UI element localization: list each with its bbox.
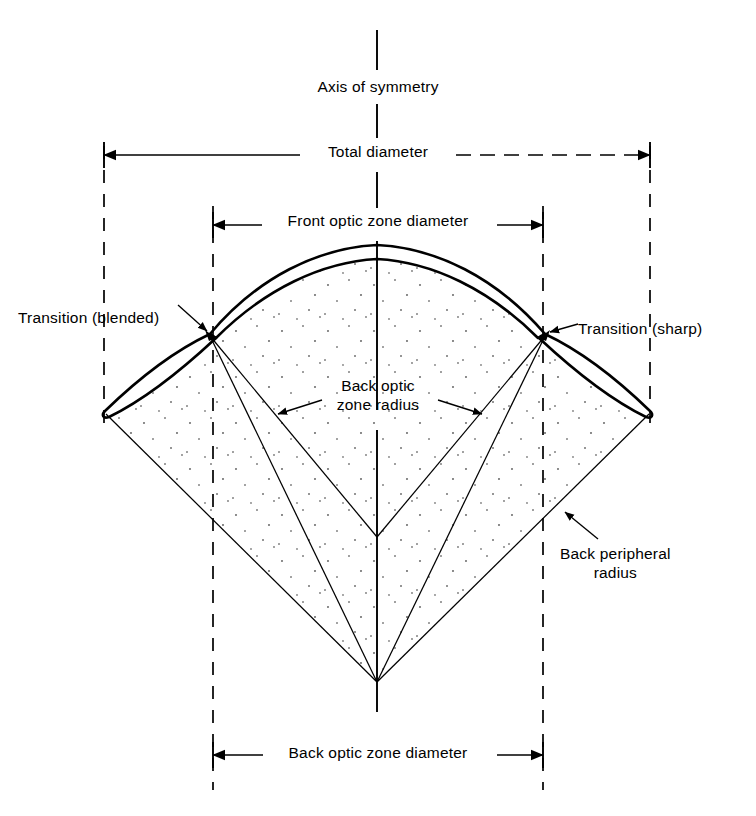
label-back-peripheral-radius-line2: radius	[560, 564, 671, 583]
leader-transition-blended	[178, 305, 207, 331]
label-back-optic-zone-radius: Back optic zone radius	[337, 377, 419, 415]
label-total-diameter: Total diameter	[321, 143, 435, 162]
leader-transition-sharp	[550, 324, 578, 332]
label-back-optic-zone-diameter: Back optic zone diameter	[282, 744, 475, 763]
label-front-optic-zone-diameter: Front optic zone diameter	[281, 212, 476, 231]
label-back-optic-zone-radius-line1: Back optic	[337, 377, 419, 396]
leader-back-peripheral-radius	[565, 512, 598, 539]
label-back-optic-zone-radius-line2: zone radius	[337, 396, 419, 415]
label-transition-sharp: Transition (sharp)	[578, 320, 702, 339]
figure-canvas: Axis of symmetry Total diameter Front op…	[0, 0, 756, 816]
label-transition-blended: Transition (blended)	[18, 309, 159, 328]
label-axis-of-symmetry: Axis of symmetry	[317, 78, 438, 97]
label-back-peripheral-radius: Back peripheral radius	[560, 545, 671, 583]
label-back-peripheral-radius-line1: Back peripheral	[560, 545, 671, 564]
